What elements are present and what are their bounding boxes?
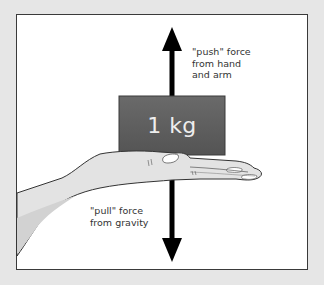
pull-force-label: "pull" force from gravity [90, 205, 149, 228]
hand-icon [17, 151, 261, 256]
pull-arrow-icon [162, 178, 182, 262]
push-arrow-icon [162, 27, 182, 97]
mass-label: 1 kg [119, 96, 225, 155]
push-force-label: "push" force from hand and arm [192, 46, 251, 81]
